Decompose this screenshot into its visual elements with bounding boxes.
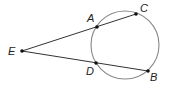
label-c: C xyxy=(140,2,148,14)
secant-EC xyxy=(22,14,136,51)
label-a: A xyxy=(86,12,94,24)
secant-EB xyxy=(22,51,148,71)
label-b: B xyxy=(150,71,157,83)
circle xyxy=(91,11,159,79)
point-e xyxy=(20,49,24,53)
label-e: E xyxy=(8,45,16,57)
secant-diagram: EACDB xyxy=(0,0,169,86)
point-d xyxy=(94,61,98,65)
point-a xyxy=(95,25,99,29)
diagram-canvas: EACDB xyxy=(0,0,169,86)
label-d: D xyxy=(86,65,94,77)
points-group: EACDB xyxy=(8,2,157,83)
point-c xyxy=(134,12,138,16)
